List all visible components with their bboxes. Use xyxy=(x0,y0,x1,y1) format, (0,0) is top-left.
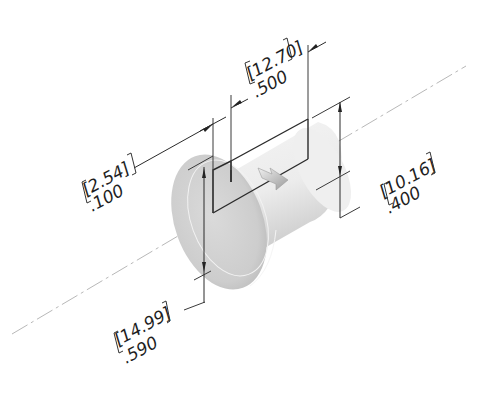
part-drawing: [12.70] .500 [2.54] .100 [10.16] .400 [1… xyxy=(0,0,487,396)
